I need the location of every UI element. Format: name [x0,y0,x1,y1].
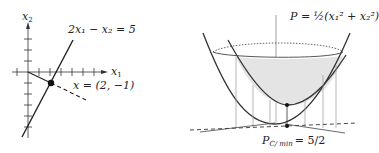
constraint-line [22,40,73,137]
point-label: x = (2, −1) [73,79,134,92]
solution-point [48,80,54,86]
diagram-canvas: x2 x1 2x₁ − x₂ = 5 x = (2, −1) [0,0,379,153]
min-label: PC/ min= 5/2 [261,134,325,148]
x-axis-label: x1 [111,65,122,79]
normal-segment [28,72,51,83]
y-axis-label: x2 [22,10,33,24]
surface-label: P = ½(x₁² + x₂²) [289,10,379,23]
min-point-upper [285,103,289,107]
top-ellipse-front [213,52,343,57]
constraint-line-label: 2x₁ − x₂ = 5 [67,23,136,36]
x-axis-arrow-icon [101,70,108,74]
min-point-lower [285,124,289,128]
tangent-line-left [200,123,275,132]
left-panel: x2 x1 2x₁ − x₂ = 5 x = (2, −1) [12,10,136,138]
right-panel: P = ½(x₁² + x₂²) PC/ min= 5/2 [190,10,379,148]
